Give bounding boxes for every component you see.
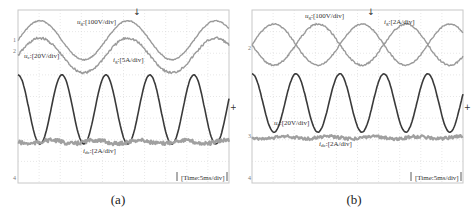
label-ug: ug:[100V/div] bbox=[77, 18, 116, 28]
channel-marker-3: 3 bbox=[248, 133, 251, 140]
level-marker-icon: + bbox=[464, 103, 471, 112]
label-uc: uc:[20V/div] bbox=[24, 52, 59, 62]
label-uc: uc:[20V/div] bbox=[274, 119, 309, 129]
timebase-label: [Time:5ms/div] bbox=[413, 174, 461, 182]
trigger-marker-icon: ↓ bbox=[367, 7, 375, 17]
scope-plot-a: ↓+ bbox=[0, 0, 236, 218]
scope-panel-a: ↓+ 1 2 4 ug:[100V/div] uc:[20V/div] ig:[… bbox=[0, 0, 236, 218]
label-ug: ug:[100V/div] bbox=[305, 12, 344, 22]
timebase-label: [Time:5ms/div] bbox=[179, 174, 227, 182]
channel-marker-2: 2 bbox=[13, 48, 16, 55]
caption-a: (a) bbox=[0, 192, 236, 208]
trigger-marker-icon: ↓ bbox=[133, 7, 141, 17]
label-idc: idc:[2A/div] bbox=[319, 140, 352, 150]
scope-panel-b: ↓+ 2 3 4 ug:[100V/div] ig:[2A/div] uc:[2… bbox=[236, 0, 472, 218]
scope-plot-b: ↓+ bbox=[236, 0, 473, 218]
label-ig: ig:[2A/div] bbox=[384, 18, 415, 28]
label-idc: idc:[2A/div] bbox=[83, 147, 116, 157]
channel-marker-4: 4 bbox=[248, 175, 251, 182]
caption-b: (b) bbox=[236, 192, 472, 208]
channel-marker-4: 4 bbox=[13, 175, 16, 182]
channel-marker-2: 2 bbox=[248, 45, 251, 52]
label-ig: ig:[5A/div] bbox=[113, 56, 144, 66]
channel-marker-1: 1 bbox=[13, 37, 16, 44]
